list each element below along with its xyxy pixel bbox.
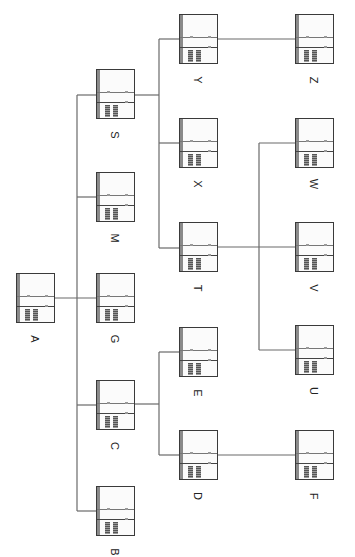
node-v xyxy=(295,222,334,272)
node-marker-icon xyxy=(107,91,110,93)
node-label: C xyxy=(109,440,121,452)
node-grid-icon xyxy=(25,309,30,321)
node-grid-icon xyxy=(105,105,110,117)
node-marker-icon xyxy=(324,357,327,359)
node-label: A xyxy=(29,333,41,345)
node-grid-icon xyxy=(113,522,118,534)
node-label: Y xyxy=(192,74,204,86)
node-marker-icon xyxy=(125,91,128,93)
node-marker-icon xyxy=(324,46,327,48)
node-marker-icon xyxy=(306,140,309,142)
node-marker-icon xyxy=(190,244,193,246)
node-marker-icon xyxy=(208,452,211,454)
node-spine xyxy=(296,326,299,374)
node-divider xyxy=(180,350,217,351)
node-divider xyxy=(180,151,217,152)
node-marker-icon xyxy=(324,244,327,246)
node-marker-icon xyxy=(125,295,128,297)
node-grid-icon xyxy=(113,208,118,220)
node-marker-icon xyxy=(45,295,48,297)
node-grid-icon xyxy=(105,208,110,220)
node-grid-icon xyxy=(312,361,317,373)
node-marker-icon xyxy=(208,244,211,246)
node-grid-icon xyxy=(105,416,110,428)
node-marker-icon xyxy=(208,349,211,351)
node-marker-icon xyxy=(208,150,211,152)
node-divider xyxy=(296,47,333,48)
node-marker-icon xyxy=(208,462,211,464)
node-divider xyxy=(296,453,333,454)
node-marker-icon xyxy=(125,508,128,510)
node-marker-icon xyxy=(45,305,48,307)
node-marker-icon xyxy=(324,140,327,142)
node-marker-icon xyxy=(125,412,128,414)
node-marker-icon xyxy=(190,36,193,38)
node-marker-icon xyxy=(125,204,128,206)
hierarchy-diagram: ABCGMSDETXYFUVWZ xyxy=(0,0,355,557)
node-grid-icon xyxy=(196,154,201,166)
node-divider xyxy=(180,47,217,48)
node-spine xyxy=(180,119,183,167)
node-grid-icon xyxy=(33,309,38,321)
node-grid-icon xyxy=(113,416,118,428)
node-u xyxy=(295,325,334,375)
node-marker-icon xyxy=(324,462,327,464)
node-marker-icon xyxy=(107,508,110,510)
node-spine xyxy=(97,381,100,429)
node-m xyxy=(96,172,135,222)
node-grid-icon xyxy=(196,50,201,62)
node-marker-icon xyxy=(324,254,327,256)
node-label: X xyxy=(192,178,204,190)
node-grid-icon xyxy=(188,154,193,166)
node-divider xyxy=(97,205,134,206)
node-spine xyxy=(97,173,100,221)
node-divider xyxy=(97,509,134,510)
node-marker-icon xyxy=(208,46,211,48)
node-label: S xyxy=(109,129,121,141)
node-grid-icon xyxy=(304,258,309,270)
node-marker-icon xyxy=(324,36,327,38)
node-label: T xyxy=(192,282,204,294)
node-marker-icon xyxy=(125,194,128,196)
node-label: B xyxy=(109,546,121,557)
node-marker-icon xyxy=(324,347,327,349)
node-b xyxy=(96,486,135,536)
node-divider xyxy=(17,306,54,307)
node-grid-icon xyxy=(188,466,193,478)
node-label: E xyxy=(192,387,204,399)
node-label: Z xyxy=(308,74,320,86)
node-label: U xyxy=(308,385,320,397)
node-divider xyxy=(97,403,134,404)
node-divider xyxy=(97,92,134,93)
node-divider xyxy=(97,413,134,414)
node-grid-icon xyxy=(196,363,201,375)
node-spine xyxy=(296,15,299,63)
node-marker-icon xyxy=(306,36,309,38)
node-spine xyxy=(97,70,100,118)
node-marker-icon xyxy=(125,518,128,520)
node-grid-icon xyxy=(188,363,193,375)
node-marker-icon xyxy=(208,359,211,361)
node-label: G xyxy=(109,333,121,345)
node-divider xyxy=(180,463,217,464)
node-d xyxy=(179,430,218,480)
node-grid-icon xyxy=(304,361,309,373)
node-divider xyxy=(296,358,333,359)
node-grid-icon xyxy=(304,154,309,166)
node-marker-icon xyxy=(208,140,211,142)
node-spine xyxy=(296,223,299,271)
node-grid-icon xyxy=(113,309,118,321)
node-marker-icon xyxy=(208,36,211,38)
node-grid-icon xyxy=(105,522,110,534)
node-divider xyxy=(180,37,217,38)
node-divider xyxy=(180,245,217,246)
node-divider xyxy=(180,141,217,142)
node-grid-icon xyxy=(196,466,201,478)
node-marker-icon xyxy=(306,347,309,349)
node-label: V xyxy=(308,282,320,294)
node-label: M xyxy=(109,232,121,244)
node-marker-icon xyxy=(306,244,309,246)
node-divider xyxy=(296,151,333,152)
node-grid-icon xyxy=(113,105,118,117)
node-marker-icon xyxy=(125,101,128,103)
